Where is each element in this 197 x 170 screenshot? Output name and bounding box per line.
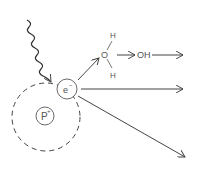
water-oxygen: O xyxy=(101,50,108,60)
bond-bottom xyxy=(107,59,112,68)
arrow-to-water xyxy=(78,58,99,80)
bond-top xyxy=(107,41,112,50)
radiolysis-diagram: P + e − O H H OH xyxy=(0,0,197,170)
arrow-diagonal xyxy=(78,96,185,157)
photon-wave xyxy=(27,20,51,82)
electron-label: e xyxy=(63,85,68,95)
proton-charge: + xyxy=(47,108,51,114)
electron-charge: − xyxy=(69,82,73,88)
oh-label: OH xyxy=(137,50,151,60)
water-h-top: H xyxy=(110,31,116,40)
water-h-bottom: H xyxy=(110,71,116,80)
